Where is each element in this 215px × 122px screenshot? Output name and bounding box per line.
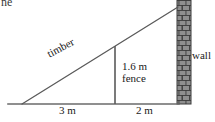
dimension-label-left: 3 m	[59, 105, 76, 117]
geometry-diagram: ne timber 1.6 m fence wall 3 m 2 m	[0, 0, 215, 122]
dimension-label-right: 2 m	[136, 105, 153, 117]
clipped-text-fragment: ne	[1, 0, 12, 9]
wall-label: wall	[192, 50, 211, 62]
timber-line	[22, 7, 178, 104]
fence-name-label: fence	[122, 73, 147, 85]
diagram-canvas	[0, 0, 215, 122]
brick-wall	[177, 0, 191, 104]
fence-height-label: 1.6 m	[122, 61, 147, 73]
fence-label-group: 1.6 m fence	[122, 61, 147, 84]
wall-brick-fill	[177, 0, 191, 104]
